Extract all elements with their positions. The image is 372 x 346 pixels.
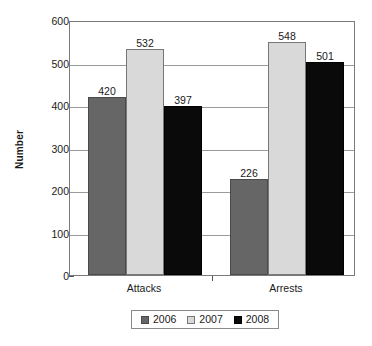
y-axis-tick-label: 100 — [35, 228, 69, 239]
bar-attacks-2008[interactable] — [164, 106, 202, 275]
bar-arrests-2008[interactable] — [306, 62, 344, 275]
y-axis-tick-label: 200 — [35, 186, 69, 197]
legend-swatch-icon — [141, 316, 149, 324]
bar-arrests-2007[interactable] — [268, 42, 306, 275]
bar-value-label: 397 — [164, 95, 202, 106]
bar-chart: Number 6005004003002001000 4205323972265… — [0, 0, 372, 346]
legend-swatch-icon — [187, 316, 195, 324]
legend-item-2007[interactable]: 2007 — [187, 314, 222, 325]
y-axis-tick-mark — [69, 276, 74, 277]
y-axis-tick-label: 300 — [35, 143, 69, 154]
bar-value-label: 420 — [88, 86, 126, 97]
x-axis-category-label-attacks: Attacks — [94, 283, 194, 294]
bar-attacks-2007[interactable] — [126, 49, 164, 275]
bar-value-label: 501 — [306, 51, 344, 62]
chart-legend: 200620072008 — [131, 310, 279, 329]
legend-label: 2006 — [153, 314, 176, 325]
x-axis-category-label-arrests: Arrests — [236, 283, 336, 294]
bar-arrests-2006[interactable] — [230, 179, 268, 275]
plot-area: 420532397226548501 — [69, 21, 355, 276]
y-axis-tick-label: 500 — [35, 58, 69, 69]
legend-item-2008[interactable]: 2008 — [234, 314, 269, 325]
legend-swatch-icon — [234, 316, 242, 324]
legend-label: 2008 — [246, 314, 269, 325]
bar-value-label: 548 — [268, 31, 306, 42]
bar-attacks-2006[interactable] — [88, 97, 126, 276]
y-axis-tick-group: 6005004003002001000 — [25, 21, 69, 276]
y-axis-tick-label: 400 — [35, 101, 69, 112]
x-axis-tick-mark — [212, 276, 213, 281]
legend-item-2006[interactable]: 2006 — [141, 314, 176, 325]
bar-value-label: 226 — [230, 168, 268, 179]
legend-label: 2007 — [199, 314, 222, 325]
bar-value-label: 532 — [126, 38, 164, 49]
y-axis-tick-label: 600 — [35, 16, 69, 27]
y-axis-tick-label: 0 — [35, 271, 69, 282]
